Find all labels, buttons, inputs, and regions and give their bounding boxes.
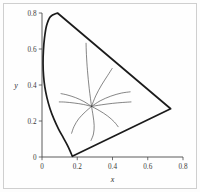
radial-curve-9	[61, 94, 92, 107]
x-tick-label: 0.4	[108, 163, 117, 171]
radial-curve-6	[91, 106, 94, 140]
y-tick-label: 0	[33, 154, 37, 162]
y-tick-label: 0.2	[28, 118, 37, 126]
y-axis-ticks: 00.20.40.60.8	[28, 10, 42, 162]
radial-curve-1	[86, 43, 91, 106]
x-axis-title: x	[110, 175, 115, 184]
x-axis-ticks: 00.20.40.60.8	[40, 157, 188, 171]
y-axis-title: y	[13, 81, 18, 90]
radial-curve-8	[59, 102, 91, 107]
radial-curves-group	[59, 43, 131, 140]
figure-container: 00.20.40.60.8 00.20.40.60.8 x y	[0, 0, 200, 192]
radial-curve-7	[72, 106, 92, 133]
radial-curve-5	[92, 106, 119, 126]
y-tick-label: 0.6	[28, 46, 37, 54]
axes-group	[42, 13, 183, 157]
x-tick-label: 0	[40, 163, 44, 171]
chromaticity-plot: 00.20.40.60.8 00.20.40.60.8 x y	[0, 0, 200, 192]
radial-curve-2	[92, 68, 113, 106]
gamut-boundary-path	[43, 13, 171, 156]
x-tick-label: 0.6	[143, 163, 152, 171]
x-tick-label: 0.2	[73, 163, 82, 171]
x-tick-label: 0.8	[179, 163, 188, 171]
y-tick-label: 0.4	[28, 82, 37, 90]
gamut-boundary-group	[43, 13, 171, 156]
y-tick-label: 0.8	[28, 10, 37, 18]
radial-curve-3	[92, 92, 131, 107]
